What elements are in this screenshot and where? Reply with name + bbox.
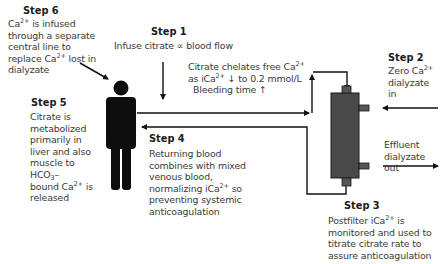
step2-text: Zero Ca2+ dialyzate in [388, 65, 433, 100]
step3-text: Postfilter iCa2+ is monitored and used t… [328, 215, 432, 261]
step1-title: Step 1 [151, 26, 187, 37]
chelation-annotation: Citrate chelates free Ca2+ as iCa2+ ↓ to… [188, 61, 305, 96]
dialyzer-icon [331, 86, 369, 186]
step2-title: Step 2 [388, 52, 424, 63]
step3-title: Step 3 [344, 200, 380, 211]
step5-title: Step 5 [31, 97, 67, 108]
step1-text: Infuse citrate ∝ blood flow [114, 40, 233, 52]
step4-title: Step 4 [149, 133, 185, 144]
step5-text: Citrate is metabolized primarily in live… [30, 111, 93, 204]
effluent-label: Effluent dialyzate out [384, 139, 440, 174]
step4-text: Returning blood combines with mixed veno… [149, 148, 246, 218]
step6-text: Ca2+ is infused through a separate centr… [8, 18, 96, 76]
step6-title: Step 6 [23, 5, 59, 16]
patient-figure-icon [106, 81, 136, 191]
